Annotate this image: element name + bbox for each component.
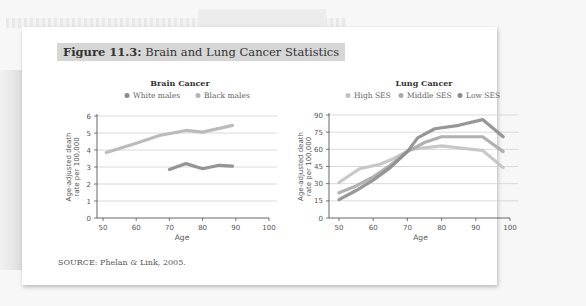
legend-marker-icon: [458, 93, 463, 98]
x-tick-label: 80: [437, 224, 446, 232]
x-tick-label: 60: [369, 224, 378, 232]
y-tick-label: 0: [87, 215, 91, 223]
y-tick-label: 75: [314, 129, 323, 137]
y-tick-label: 45: [314, 163, 323, 171]
series-line-black-males: [106, 125, 232, 152]
x-axis-label: Age: [413, 233, 428, 242]
x-tick-label: 100: [503, 224, 516, 232]
legend-label: Middle SES: [407, 91, 452, 100]
legend-label: Low SES: [466, 91, 500, 100]
y-tick-label: 4: [87, 147, 92, 155]
y-axis-label: Age-adjusted deathrate per 100,000: [65, 133, 81, 202]
x-tick-label: 50: [99, 224, 108, 232]
legend-marker-icon: [125, 93, 130, 98]
x-tick-label: 60: [132, 224, 141, 232]
y-tick-label: 2: [87, 181, 91, 189]
brain-cancer-chart: Brain CancerWhite malesBlack males012345…: [65, 78, 277, 242]
series-line-white-males: [169, 164, 232, 170]
legend-label: White males: [133, 91, 180, 100]
y-tick-label: 6: [87, 113, 92, 121]
y-axis-label: Age-adjusted deathrate per 100,000: [297, 132, 313, 201]
legend-marker-icon: [399, 93, 404, 98]
lung-cancer-chart: Lung CancerHigh SESMiddle SESLow SES0153…: [297, 78, 518, 242]
y-tick-label: 0: [319, 215, 323, 223]
y-tick-label: 90: [314, 112, 323, 120]
x-tick-label: 50: [335, 224, 344, 232]
x-axis-label: Age: [175, 233, 190, 242]
y-tick-label: 60: [314, 146, 323, 154]
source-note: SOURCE: Phelan & Link, 2005.: [58, 258, 186, 267]
series-line-low-ses: [339, 120, 503, 200]
x-tick-label: 70: [403, 224, 412, 232]
y-tick-label: 1: [87, 198, 91, 206]
y-tick-label: 15: [314, 197, 323, 205]
y-tick-label: 5: [87, 130, 91, 138]
x-tick-label: 70: [165, 224, 174, 232]
y-tick-label: 30: [314, 180, 323, 188]
y-tick-label: 3: [87, 164, 91, 172]
chart-title: Lung Cancer: [395, 78, 453, 88]
x-tick-label: 90: [231, 224, 240, 232]
x-tick-label: 80: [198, 224, 207, 232]
x-tick-label: 100: [262, 224, 275, 232]
series-line-high-ses: [339, 146, 503, 183]
legend-label: Black males: [204, 91, 250, 100]
chart-title: Brain Cancer: [150, 78, 210, 88]
legend-marker-icon: [346, 93, 351, 98]
legend-marker-icon: [196, 93, 201, 98]
x-tick-label: 90: [471, 224, 480, 232]
legend-label: High SES: [354, 91, 391, 100]
